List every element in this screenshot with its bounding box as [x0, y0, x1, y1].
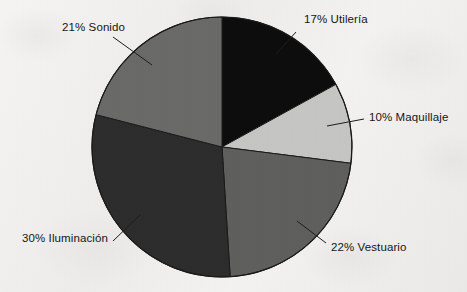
pie-chart-figure: 17% Utilería 10% Maquillaje 22% Vestuari… — [0, 0, 467, 292]
pie-slice-group — [92, 17, 352, 277]
pie-label-sonido: 21% Sonido — [62, 22, 125, 34]
pie-label-utileria: 17% Utilería — [304, 14, 368, 26]
pie-slice-vestuario — [222, 147, 351, 277]
pie-label-iluminacion: 30% Iluminación — [22, 233, 108, 245]
pie-label-vestuario: 22% Vestuario — [331, 242, 406, 254]
pie-label-maquillaje: 10% Maquillaje — [369, 112, 448, 124]
